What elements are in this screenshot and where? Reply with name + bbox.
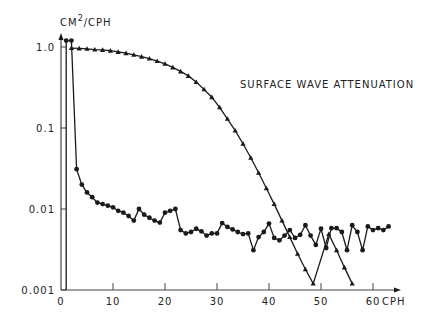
circle-marker-icon	[183, 231, 188, 236]
triangle-marker-icon	[279, 218, 284, 223]
circle-marker-icon	[293, 235, 298, 240]
circle-marker-icon	[152, 218, 157, 223]
circle-marker-icon	[147, 215, 152, 220]
circle-marker-icon	[173, 207, 178, 212]
triangle-marker-icon	[303, 267, 308, 272]
circle-marker-icon	[334, 226, 339, 231]
circle-marker-icon	[339, 230, 344, 235]
circle-marker-icon	[345, 248, 350, 253]
circle-marker-icon	[142, 212, 147, 217]
circle-marker-icon	[64, 38, 69, 43]
circle-marker-icon	[246, 231, 251, 236]
y-tick-label: 0.01	[29, 204, 55, 215]
y-tick-label: 0.1	[36, 123, 55, 134]
x-tick-label: 30	[210, 296, 225, 307]
circle-marker-icon	[168, 208, 173, 213]
circle-marker-icon	[287, 228, 292, 233]
triangle-marker-icon	[287, 234, 292, 239]
y-axis-label: CM2/CPH	[60, 14, 112, 28]
circle-marker-icon	[121, 210, 126, 215]
circle-marker-icon	[303, 223, 308, 228]
x-tick-label: 10	[106, 296, 121, 307]
circle-marker-icon	[251, 248, 256, 253]
circle-marker-icon	[355, 230, 360, 235]
circle-marker-icon	[235, 230, 240, 235]
circle-marker-icon	[386, 224, 391, 229]
circle-marker-icon	[329, 226, 334, 231]
circle-marker-icon	[105, 203, 110, 208]
circle-marker-icon	[256, 235, 261, 240]
y-axis-arrow-icon	[59, 33, 64, 40]
circle-marker-icon	[95, 200, 100, 205]
circle-marker-icon	[298, 232, 303, 237]
circle-marker-icon	[215, 231, 220, 236]
x-axis-label: CPH	[382, 296, 406, 307]
y-tick-label: 1.0	[36, 42, 55, 53]
circle-marker-icon	[313, 243, 318, 248]
attenuation-chart: 1.00.10.010.0010102030405060 CM2/CPH SUR…	[0, 0, 427, 328]
circle-marker-icon	[116, 208, 121, 213]
x-axis-arrow-icon	[394, 288, 401, 293]
triangle-marker-icon	[311, 281, 316, 286]
circle-marker-icon	[111, 205, 116, 210]
x-tick-label: 40	[262, 296, 277, 307]
circle-marker-icon	[277, 238, 282, 243]
triangle-marker-icon	[334, 248, 339, 253]
triangle-marker-icon	[264, 186, 269, 191]
triangle-marker-icon	[295, 251, 300, 256]
spectrum-line	[66, 41, 388, 251]
axes	[59, 33, 402, 293]
triangle-marker-icon	[350, 281, 355, 286]
circle-marker-icon	[376, 226, 381, 231]
circle-marker-icon	[194, 226, 199, 231]
circle-marker-icon	[225, 225, 230, 230]
series-annotation: SURFACE WAVE ATTENUATION	[240, 79, 414, 90]
circle-marker-icon	[209, 231, 214, 236]
circle-marker-icon	[199, 229, 204, 234]
circle-marker-icon	[381, 228, 386, 233]
circle-marker-icon	[241, 232, 246, 237]
circle-marker-icon	[157, 220, 162, 225]
circle-marker-icon	[308, 233, 313, 238]
x-tick-label: 20	[158, 296, 173, 307]
circle-marker-icon	[272, 235, 277, 240]
spectrum-series	[64, 38, 391, 290]
circle-marker-icon	[189, 230, 194, 235]
circle-marker-icon	[261, 230, 266, 235]
circle-marker-icon	[85, 190, 90, 195]
circle-marker-icon	[163, 210, 168, 215]
circle-marker-icon	[319, 226, 324, 231]
triangle-marker-icon	[248, 155, 253, 160]
circle-marker-icon	[131, 218, 136, 223]
circle-marker-icon	[371, 228, 376, 233]
circle-marker-icon	[69, 38, 74, 43]
triangle-marker-icon	[342, 265, 347, 270]
circle-marker-icon	[137, 207, 142, 212]
circle-marker-icon	[360, 248, 365, 253]
circle-marker-icon	[230, 227, 235, 232]
circle-marker-icon	[90, 195, 95, 200]
circle-marker-icon	[79, 182, 84, 187]
x-tick-label: 50	[314, 296, 329, 307]
data-series	[64, 38, 391, 290]
circle-marker-icon	[100, 202, 105, 207]
circle-marker-icon	[365, 224, 370, 229]
x-tick-label: 0	[57, 296, 64, 307]
circle-marker-icon	[282, 233, 287, 238]
circle-marker-icon	[74, 167, 79, 172]
circle-marker-icon	[204, 233, 209, 238]
triangle-marker-icon	[272, 201, 277, 206]
triangle-marker-icon	[256, 170, 261, 175]
circle-marker-icon	[220, 221, 225, 226]
y-tick-label: 0.001	[21, 285, 55, 296]
x-tick-label: 60	[366, 296, 381, 307]
circle-marker-icon	[267, 221, 272, 226]
circle-marker-icon	[324, 246, 329, 251]
circle-marker-icon	[178, 228, 183, 233]
circle-marker-icon	[126, 214, 131, 219]
circle-marker-icon	[350, 223, 355, 228]
